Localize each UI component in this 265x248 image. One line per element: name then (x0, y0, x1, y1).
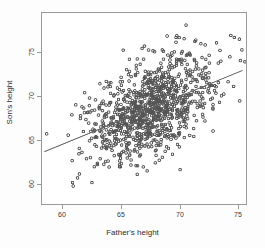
y-axis-label: Son's height (4, 0, 16, 205)
x-tick-label: 75 (234, 211, 242, 218)
y-tick-mark (37, 140, 41, 141)
x-tick-label: 60 (58, 211, 66, 218)
scatter-plot-figure: 60 65 70 75 60 65 70 75 Son's height Fat… (0, 0, 265, 248)
x-tick-mark (180, 205, 181, 209)
plot-area (41, 12, 247, 205)
x-tick-mark (62, 205, 63, 209)
y-tick-label: 60 (29, 180, 36, 188)
x-tick-mark (121, 205, 122, 209)
y-tick-mark (37, 184, 41, 185)
y-tick-mark (37, 52, 41, 53)
scatter-points-canvas (42, 13, 246, 204)
y-tick-label: 70 (29, 92, 36, 100)
y-tick-label: 65 (29, 136, 36, 144)
y-tick-label: 75 (29, 48, 36, 56)
x-tick-mark (238, 205, 239, 209)
x-axis-label: Father's height (0, 228, 265, 237)
y-tick-mark (37, 96, 41, 97)
y-axis-label-text: Son's height (6, 81, 15, 125)
x-tick-label: 65 (117, 211, 125, 218)
x-tick-label: 70 (176, 211, 184, 218)
